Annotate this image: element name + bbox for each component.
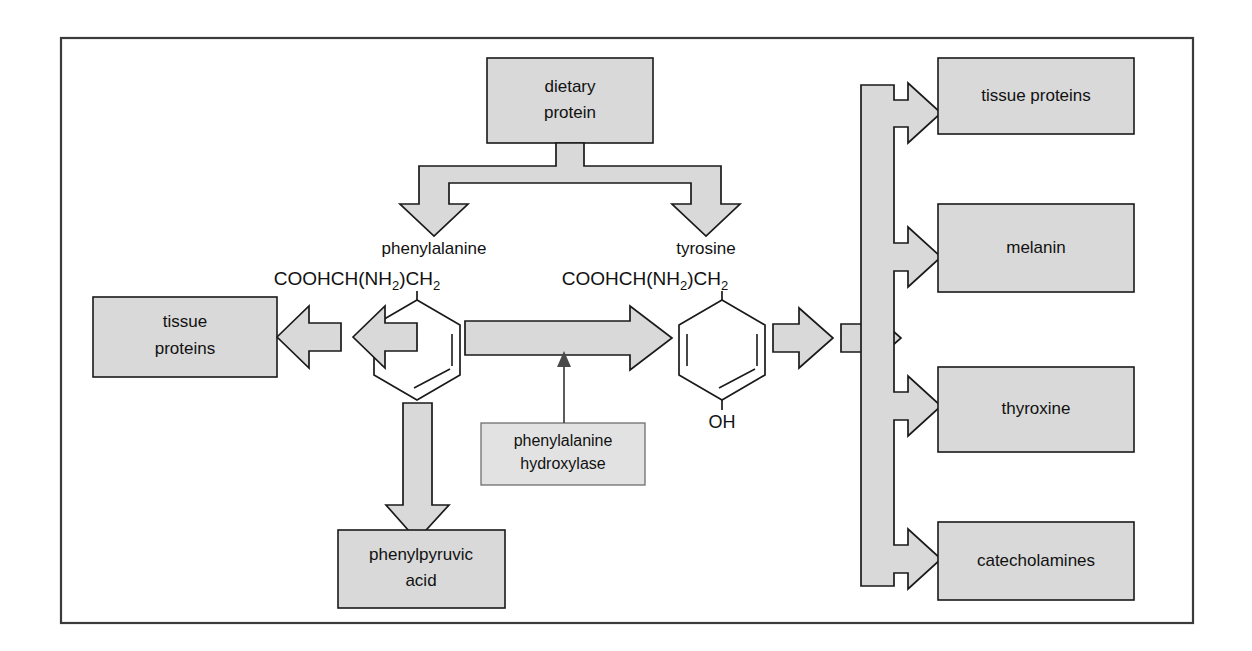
tissue-proteins-left-label-line1: tissue bbox=[163, 312, 207, 331]
catecholamines-label: catecholamines bbox=[977, 551, 1095, 570]
phenylalanine-name: phenylalanine bbox=[382, 239, 487, 258]
dietary-protein-label-line1: dietary bbox=[544, 77, 596, 96]
node-dietary-protein[interactable] bbox=[487, 58, 653, 143]
dietary-protein-label-line2: protein bbox=[544, 103, 596, 122]
phenylpyruvic-acid-label-line1: phenylpyruvic bbox=[369, 545, 473, 564]
thyroxine-label: thyroxine bbox=[1002, 399, 1071, 418]
tyr-oh-label: OH bbox=[709, 412, 736, 432]
tyr-formula-sub1: 2 bbox=[680, 278, 687, 293]
melanin-label: melanin bbox=[1006, 238, 1066, 257]
phe-formula-mid: )CH bbox=[399, 268, 433, 289]
tyr-formula-sub2: 2 bbox=[721, 278, 728, 293]
tissue-proteins-left-label-line2: proteins bbox=[155, 339, 215, 358]
pathway-diagram: dietary protein phenylalanine COOHCH(NH2… bbox=[0, 0, 1252, 651]
tyr-formula-prefix: COOHCH(NH bbox=[562, 268, 680, 289]
tissue-proteins-right-label: tissue proteins bbox=[981, 86, 1091, 105]
phe-formula-sub2: 2 bbox=[433, 278, 440, 293]
phe-formula-sub1: 2 bbox=[392, 278, 399, 293]
phe-formula-prefix: COOHCH(NH bbox=[274, 268, 392, 289]
node-phenylpyruvic-acid[interactable] bbox=[338, 530, 505, 608]
phenylpyruvic-acid-label-line2: acid bbox=[405, 571, 436, 590]
node-tissue-proteins-left[interactable] bbox=[93, 297, 277, 377]
tyr-formula-mid: )CH bbox=[687, 268, 721, 289]
phenylalanine-hydroxylase-label-line1: phenylalanine bbox=[514, 432, 613, 449]
tyrosine-name: tyrosine bbox=[676, 239, 736, 258]
phenylalanine-hydroxylase-label-line2: hydroxylase bbox=[520, 455, 605, 472]
